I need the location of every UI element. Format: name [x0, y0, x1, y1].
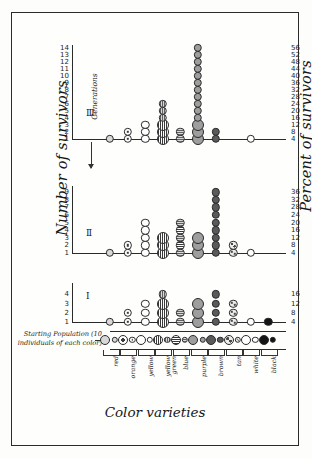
data-point	[194, 65, 202, 73]
data-point	[141, 249, 149, 257]
panel-I-y-tick: 3	[65, 300, 69, 308]
panel-II-y-tick: 6	[65, 211, 69, 219]
starting-population-marker	[206, 335, 216, 345]
data-point	[194, 100, 202, 108]
panel-I-percent-tick: 4	[291, 318, 295, 326]
data-point	[123, 241, 131, 249]
data-point	[141, 318, 149, 326]
panel-III-percent-tick: 52	[291, 51, 300, 59]
panel-III-percent-tick: 44	[291, 65, 300, 73]
starting-population-marker	[100, 335, 110, 345]
color-variety-label: yellow	[148, 356, 154, 400]
data-point	[247, 318, 255, 326]
data-point	[194, 72, 202, 80]
data-point	[176, 128, 184, 136]
data-point	[194, 107, 202, 115]
starting-population-marker	[241, 335, 251, 345]
panel-III-y-tick: 6	[65, 100, 69, 108]
starting-population-marker	[217, 337, 223, 343]
data-point	[194, 79, 202, 87]
panel-III-y-tick: 7	[65, 93, 69, 101]
data-point	[141, 299, 149, 307]
panel-III-y-tick: 12	[60, 58, 69, 66]
data-point	[211, 249, 219, 257]
data-point	[229, 249, 237, 257]
starting-population-marker	[270, 337, 276, 343]
panel-II-y-tick: 2	[65, 241, 69, 249]
generations-arrow-icon	[91, 142, 92, 168]
panel-II-percent-tick: 32	[291, 196, 300, 204]
starting-population-marker	[235, 337, 241, 343]
color-variety-label: blue	[183, 356, 189, 400]
panel-II-y-tick: 8	[65, 196, 69, 204]
data-point	[141, 135, 149, 143]
data-point	[106, 249, 114, 257]
data-point	[141, 128, 149, 136]
data-point	[211, 290, 219, 298]
panel-II-percent-tick: 20	[291, 219, 300, 227]
panel-III-percent-tick: 36	[291, 79, 300, 87]
data-point	[211, 234, 219, 242]
panel-III-percent-tick: 16	[291, 114, 300, 122]
panel-I-percent-tick: 12	[291, 300, 300, 308]
panel-II-percent-tick: 24	[291, 211, 300, 219]
panel-I-y-axis	[72, 283, 73, 323]
data-point	[192, 232, 204, 244]
data-point	[211, 188, 219, 196]
data-point	[123, 128, 131, 136]
starting-population-marker	[118, 335, 128, 345]
data-point	[194, 51, 202, 59]
panel-III-percent-tick: 12	[291, 121, 300, 129]
data-point	[211, 196, 219, 204]
panel-III-y-tick: 11	[60, 65, 69, 73]
panel-I-percent-tick: 8	[291, 309, 295, 317]
panel-II-percent-tick: 16	[291, 226, 300, 234]
panel-III-percent-tick: 40	[291, 72, 300, 80]
figure-root: Number of survivors Percent of survivors…	[0, 0, 312, 459]
panel-III-y-tick: 9	[65, 79, 69, 87]
panel-II-y-tick: 9	[65, 188, 69, 196]
data-point	[123, 318, 131, 326]
data-point	[123, 309, 131, 317]
color-variety-label: purple	[201, 356, 207, 400]
panel-II-percent-tick: 28	[291, 203, 300, 211]
panel-III-percent-tick: 24	[291, 100, 300, 108]
panel-I-percent-tick: 16	[291, 290, 300, 298]
panel-II-y-tick: 3	[65, 234, 69, 242]
data-point	[229, 309, 237, 317]
data-point	[264, 318, 272, 326]
y-axis-right-label: Percent of survivors	[298, 36, 312, 236]
data-point	[176, 234, 184, 242]
color-variety-labels: redorangeyellowyellow greenbluepurplebro…	[110, 358, 286, 402]
panel-I-y-tick: 1	[65, 318, 69, 326]
color-variety-label: red	[113, 356, 119, 400]
color-variety-label: black	[271, 356, 277, 400]
data-point	[194, 93, 202, 101]
starting-population-row	[110, 331, 286, 350]
data-point	[141, 218, 149, 226]
x-axis-label: Color varieties	[60, 404, 250, 420]
data-point	[106, 135, 114, 143]
panel-III-y-tick: 3	[65, 121, 69, 129]
panel-II-percent-tick: 4	[291, 249, 295, 257]
panel-I-y-tick: 4	[65, 290, 69, 298]
panel-II-y-tick: 4	[65, 226, 69, 234]
data-point	[176, 135, 184, 143]
starting-population-marker	[164, 337, 170, 343]
panel-III-percent-tick: 4	[291, 135, 295, 143]
data-point	[159, 100, 167, 108]
panel-id-III: Ⅲ	[86, 108, 95, 118]
panel-II-percent-tick: 36	[291, 188, 300, 196]
data-point	[157, 298, 169, 310]
data-point	[211, 203, 219, 211]
panel-III-percent-tick: 32	[291, 86, 300, 94]
data-point	[211, 299, 219, 307]
data-point	[247, 249, 255, 257]
data-point	[123, 249, 131, 257]
starting-population-label: Starting Population (10 individuals of e…	[14, 330, 102, 348]
panel-III-y-tick: 10	[60, 72, 69, 80]
data-point	[157, 232, 169, 244]
starting-population-marker	[129, 337, 135, 343]
panel-generation-I: 1234481216Ⅰ	[72, 283, 286, 326]
data-point	[229, 299, 237, 307]
